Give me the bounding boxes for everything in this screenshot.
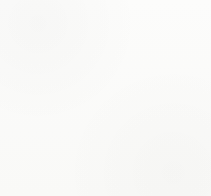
figure-canvas [0,0,211,196]
paper-texture [0,0,211,196]
